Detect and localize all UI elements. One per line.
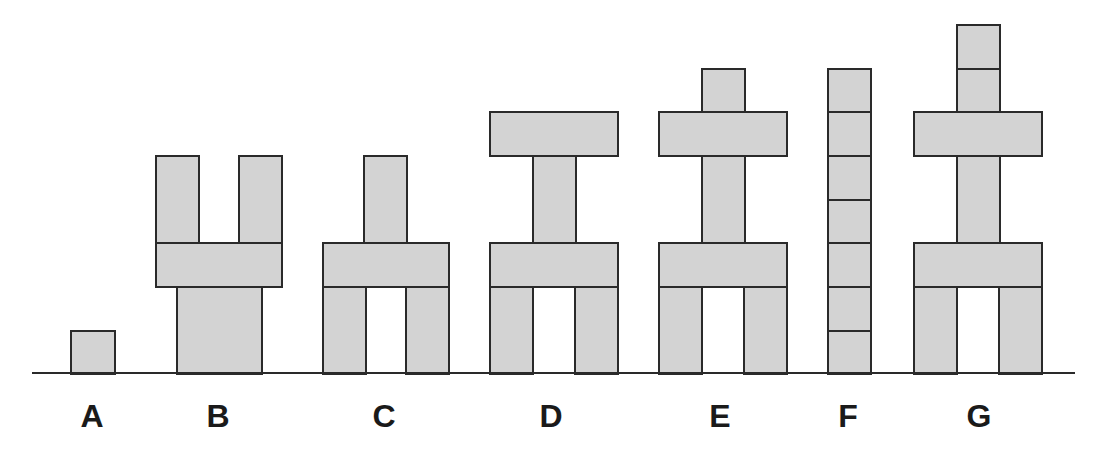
block (658, 286, 703, 375)
block (574, 286, 619, 375)
block (238, 155, 283, 244)
structure-label-b: B (188, 400, 248, 432)
structure-label-d: D (521, 400, 581, 432)
structure-label-a: A (62, 400, 122, 432)
block (743, 286, 788, 375)
block (363, 155, 408, 244)
block (322, 242, 450, 288)
block (155, 155, 200, 244)
block (827, 286, 872, 332)
block (827, 330, 872, 375)
block (701, 68, 746, 113)
block (827, 155, 872, 201)
block (827, 111, 872, 157)
block (658, 242, 788, 288)
block (956, 155, 1001, 244)
structure-label-f: F (818, 400, 878, 432)
block (956, 24, 1001, 70)
block (956, 68, 1001, 113)
block (155, 242, 283, 288)
block (489, 242, 619, 288)
structure-label-e: E (690, 400, 750, 432)
block (827, 68, 872, 113)
block (405, 286, 450, 375)
ground-line (32, 372, 1075, 374)
block (913, 242, 1043, 288)
block (998, 286, 1043, 375)
block (322, 286, 367, 375)
block (913, 286, 958, 375)
block (489, 286, 534, 375)
block (532, 155, 577, 244)
structure-label-c: C (354, 400, 414, 432)
block (827, 242, 872, 288)
block (701, 155, 746, 244)
block (827, 199, 872, 244)
block (176, 286, 263, 375)
block (489, 111, 619, 157)
block-structures-diagram: A B C D E F G (0, 0, 1099, 460)
block (913, 111, 1043, 157)
block (658, 111, 788, 157)
structure-label-g: G (949, 400, 1009, 432)
block (70, 330, 116, 375)
